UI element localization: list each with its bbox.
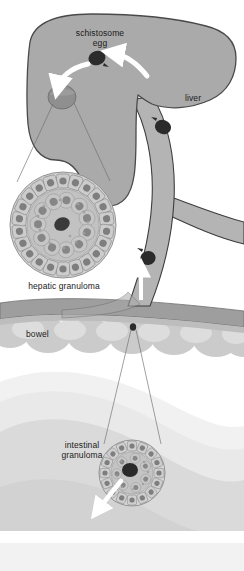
- label-liver: liver: [185, 93, 221, 103]
- label-hepatic-granuloma: hepatic granuloma: [8, 281, 120, 291]
- portal-vein-right-branch: [166, 196, 244, 244]
- intestinal-granuloma-egg: [122, 463, 138, 477]
- bottom-band: [0, 543, 244, 571]
- figure-canvas: schistosome egg liver hepatic granuloma …: [0, 0, 244, 571]
- label-bowel: bowel: [26, 329, 66, 339]
- egg-vein-lower-spine: [137, 248, 143, 252]
- label-intestinal-granuloma: intestinal granuloma: [52, 440, 112, 460]
- hepatic-granuloma: [10, 172, 116, 278]
- bottom-gap: [0, 531, 244, 543]
- egg-bowel-wall: [130, 323, 136, 331]
- label-schistosome-egg: schistosome egg: [62, 28, 138, 48]
